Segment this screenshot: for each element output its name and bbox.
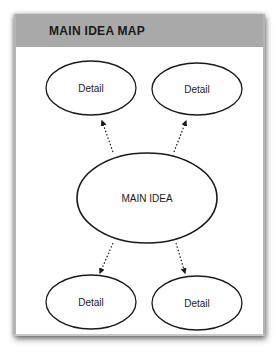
detail-node-bottom-right: Detail xyxy=(152,276,242,330)
detail-label: Detail xyxy=(78,297,104,308)
edge-top-right xyxy=(174,121,186,152)
edge-bottom-right xyxy=(176,243,185,273)
edge-top-left xyxy=(102,121,113,152)
detail-node-top-left: Detail xyxy=(46,61,136,115)
detail-label: Detail xyxy=(78,83,104,94)
main-idea-label: MAIN IDEA xyxy=(121,193,172,204)
idea-map-diagram: Detail Detail MAIN IDEA Detail Detail xyxy=(0,0,276,357)
detail-label: Detail xyxy=(184,84,210,95)
edge-bottom-left xyxy=(100,243,113,273)
detail-node-top-right: Detail xyxy=(152,63,242,115)
detail-label: Detail xyxy=(184,298,210,309)
detail-node-bottom-left: Detail xyxy=(46,275,136,329)
main-idea-node: MAIN IDEA xyxy=(77,153,217,243)
